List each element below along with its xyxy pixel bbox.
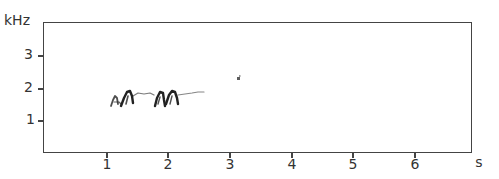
song-phrase xyxy=(111,91,204,106)
spectrogram-traces xyxy=(0,0,499,179)
isolated-blip xyxy=(237,75,241,80)
